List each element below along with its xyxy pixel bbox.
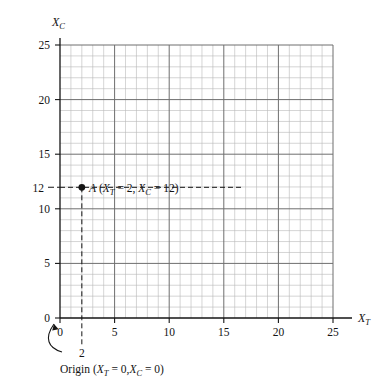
chart-svg: 0 5 10 15 20 25 0 5 10 15 20 25 12 2 A [0,0,388,392]
y-tick-label-5: 5 [44,257,50,269]
x-tick-label-15: 15 [218,326,230,338]
y-tick-label-0: 0 [44,312,50,324]
y-tick-label-20: 20 [39,94,51,106]
y-tick-label-15: 15 [39,148,51,160]
x-tick-label-25: 25 [327,326,339,338]
y-axis-label-sub: C [59,21,65,31]
y-tick-label-12: 12 [33,182,45,194]
x-tick-label-0: 0 [57,326,63,338]
x-tick-label-10: 10 [163,326,175,338]
y-tick-label-10: 10 [39,203,51,215]
point-a-x-eq: = 2, [115,182,139,195]
x-tick-label-5: 5 [112,326,118,338]
origin-x-eq: = 0, [109,363,130,376]
origin-y-eq: = 0) [142,363,164,376]
origin-word: Origin [60,363,90,376]
point-a-y-eq: = 12) [151,182,179,195]
y-tick-label-25: 25 [39,39,51,51]
x-tick-label-20: 20 [273,326,285,338]
data-point-a[interactable] [78,184,85,191]
figure-container: 0 5 10 15 20 25 0 5 10 15 20 25 12 2 A [0,0,388,392]
x-tick-label-2: 2 [79,347,85,359]
